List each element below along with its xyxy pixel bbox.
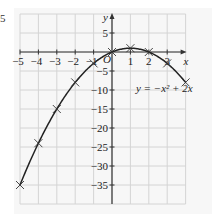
x-tick-label: −2	[67, 55, 79, 67]
equation-label: y = −x² + 2x	[135, 82, 193, 94]
x-tick-label: −3	[49, 55, 61, 67]
y-tick-label: −25	[91, 141, 109, 153]
y-tick-label: −35	[91, 179, 109, 191]
parabola-chart: −5−4−3−2−11235−5−10−15−20−25−30−35xyOy =…	[0, 0, 218, 221]
y-tick-label: −15	[91, 103, 109, 115]
x-tick-label: −5	[12, 55, 24, 67]
y-tick-label: −5	[96, 65, 108, 77]
y-tick-label: −30	[91, 160, 109, 172]
x-tick-label: 1	[128, 55, 134, 67]
y-axis-label: y	[102, 11, 108, 23]
x-tick-label: −4	[31, 55, 43, 67]
y-tick-label: 5	[103, 27, 109, 39]
y-tick-label: −20	[91, 122, 109, 134]
y-tick-label: −10	[91, 84, 109, 96]
x-axis-label: x	[183, 55, 189, 67]
x-tick-label: 2	[146, 55, 152, 67]
